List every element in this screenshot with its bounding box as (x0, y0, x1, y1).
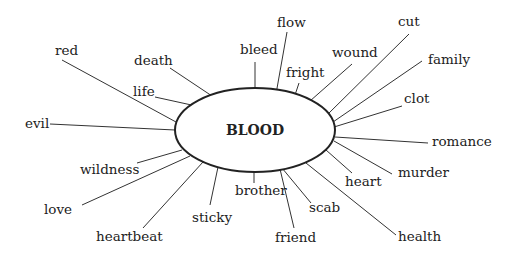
node-label-scab: scab (309, 199, 340, 215)
node-label-friend: friend (275, 229, 316, 245)
spoke-line-red (62, 60, 176, 122)
node-label-flow: flow (277, 14, 306, 30)
node-label-health: health (398, 228, 441, 244)
spoke-line-evil (50, 124, 175, 130)
spoke-line-death (170, 68, 215, 98)
node-label-sticky: sticky (192, 209, 232, 225)
node-label-romance: romance (432, 133, 492, 149)
spoke-line-sticky (210, 167, 218, 205)
node-label-red: red (55, 42, 78, 58)
spoke-line-murder (334, 141, 392, 174)
node-label-heartbeat: heartbeat (96, 228, 163, 244)
spoke-line-friend (280, 169, 294, 228)
node-label-bleed: bleed (240, 41, 278, 57)
spoke-line-heart (326, 150, 352, 173)
node-label-family: family (428, 51, 470, 67)
spoke-line-romance (335, 137, 428, 143)
node-label-wildness: wildness (80, 161, 139, 177)
node-label-brother: brother (235, 182, 287, 198)
node-label-wound: wound (332, 44, 378, 60)
spoke-line-clot (334, 106, 402, 127)
node-label-cut: cut (398, 13, 420, 29)
node-label-life: life (133, 83, 155, 99)
blood-word-association-diagram: BLOOD reddeathlifeevilwildnessloveheartb… (0, 0, 513, 260)
node-label-evil: evil (25, 115, 49, 131)
node-label-fright: fright (286, 64, 325, 80)
spoke-line-flow (276, 32, 287, 94)
node-label-love: love (44, 201, 72, 217)
node-label-death: death (134, 52, 173, 68)
node-label-heart: heart (345, 173, 382, 189)
node-label-clot: clot (404, 90, 430, 106)
node-label-murder: murder (398, 164, 450, 180)
spoke-line-wildness (137, 150, 182, 163)
center-label: BLOOD (226, 122, 284, 138)
